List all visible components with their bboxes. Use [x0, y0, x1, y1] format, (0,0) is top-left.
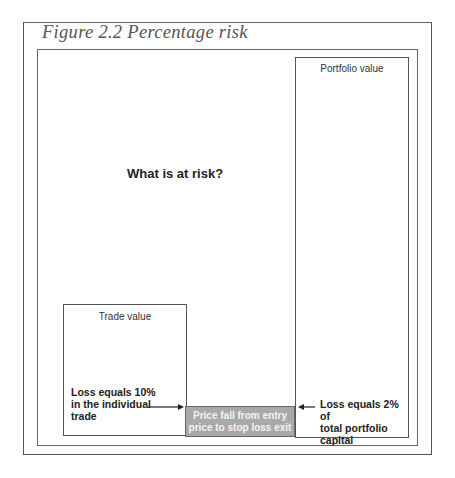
figure-title: Figure 2.2 Percentage risk	[42, 22, 248, 43]
portfolio-loss-line-1: Loss equals 2% of	[320, 398, 410, 422]
trade-value-label: Trade value	[63, 311, 187, 322]
what-is-at-risk-heading: What is at risk?	[127, 166, 223, 181]
arrow-right-icon	[148, 403, 184, 411]
arrow-left-icon	[298, 403, 316, 411]
portfolio-loss-line-2: total portfolio	[320, 422, 410, 434]
portfolio-value-label: Portfolio value	[295, 63, 409, 74]
portfolio-loss-line-3: capital	[320, 434, 410, 446]
portfolio-value-box	[295, 57, 409, 438]
stop-loss-line-2: price to stop loss exit	[189, 422, 292, 434]
stop-loss-price-fall-box: Price fall from entry price to stop loss…	[185, 406, 295, 437]
trade-loss-line-3: trade	[71, 410, 171, 422]
stop-loss-line-1: Price fall from entry	[193, 410, 287, 422]
portfolio-loss-annotation: Loss equals 2% of total portfolio capita…	[320, 398, 410, 446]
trade-loss-line-1: Loss equals 10%	[71, 386, 171, 398]
